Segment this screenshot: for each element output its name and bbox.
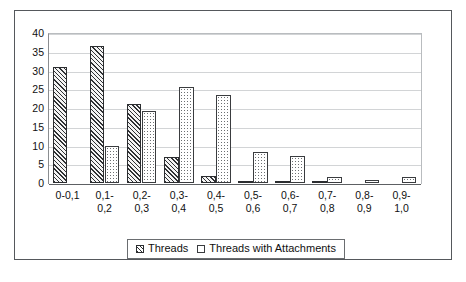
- x-tick-label-line: 0-0,1: [49, 189, 86, 202]
- x-tick-label: 0,2-0,3: [123, 189, 160, 214]
- x-tick-label: 0,1-0,2: [86, 189, 123, 214]
- legend-label-threads: Threads: [148, 242, 188, 255]
- bar: [105, 146, 120, 184]
- x-tick-label-line: 0,7: [272, 202, 309, 215]
- x-tick-label-line: 0,4: [160, 202, 197, 215]
- x-tick-label-line: 0,9: [346, 202, 383, 215]
- x-tick-label-line: 0,4-: [197, 189, 234, 202]
- bar-group: [86, 33, 123, 183]
- bar: [327, 177, 342, 183]
- bar: [290, 156, 305, 183]
- x-tick-label: 0,8-0,9: [346, 189, 383, 214]
- legend-item-threads-with-attachments: Threads with Attachments: [197, 242, 336, 255]
- bar-group: [197, 33, 234, 183]
- diagonal-hatch-swatch-icon: [136, 245, 144, 253]
- x-axis: 0-0,10,1-0,20,2-0,30,3-0,40,4-0,50,5-0,6…: [49, 189, 420, 237]
- x-tick-label: 0-0,1: [49, 189, 86, 202]
- y-tick-label-30: 30: [18, 66, 44, 76]
- x-tick-label: 0,6-0,7: [272, 189, 309, 214]
- y-tick-label-35: 35: [18, 47, 44, 57]
- x-tick-label: 0,7-0,8: [309, 189, 346, 214]
- x-tick-label-line: 0,5: [197, 202, 234, 215]
- x-tick-label-line: 0,3-: [160, 189, 197, 202]
- bar-group: [235, 33, 272, 183]
- x-tick-label-line: 0,1-: [86, 189, 123, 202]
- bar: [365, 180, 380, 183]
- x-tick-label: 0,9-1,0: [383, 189, 420, 214]
- bar: [127, 104, 142, 183]
- y-tick-label-15: 15: [18, 122, 44, 132]
- legend-label-threads-with-attachments: Threads with Attachments: [209, 242, 336, 255]
- gridline-0: [49, 184, 421, 185]
- bar: [90, 46, 105, 183]
- bar: [402, 177, 417, 183]
- x-tick-label-line: 0,3: [123, 202, 160, 215]
- bar-group: [346, 33, 383, 183]
- dotted-swatch-icon: [197, 245, 205, 253]
- chart-legend: Threads Threads with Attachments: [127, 239, 345, 259]
- x-tick-label: 0,5-0,6: [235, 189, 272, 214]
- x-tick-label-line: 0,5-: [235, 189, 272, 202]
- x-tick-label-line: 0,2-: [123, 189, 160, 202]
- bar: [53, 67, 68, 183]
- x-tick-label-line: 0,8: [309, 202, 346, 215]
- y-tick-label-25: 25: [18, 84, 44, 94]
- x-tick-label-line: 0,6-: [272, 189, 309, 202]
- bars-layer: [49, 33, 420, 183]
- bar: [275, 181, 290, 183]
- bar: [142, 111, 157, 183]
- bar: [179, 87, 194, 183]
- bar-group: [160, 33, 197, 183]
- y-tick-label-20: 20: [18, 103, 44, 113]
- legend-item-threads: Threads: [136, 242, 188, 255]
- bar-group: [272, 33, 309, 183]
- x-tick-label-line: 0,8-: [346, 189, 383, 202]
- bar-group: [383, 33, 420, 183]
- x-tick-label-line: 0,9-: [383, 189, 420, 202]
- y-tick-label-10: 10: [18, 141, 44, 151]
- y-axis: 4035302520151050: [15, 33, 44, 183]
- x-tick-label: 0,3-0,4: [160, 189, 197, 214]
- bar: [312, 181, 327, 183]
- x-tick-label-line: 0,7-: [309, 189, 346, 202]
- x-tick-label-line: 0,6: [235, 202, 272, 215]
- bar-group: [49, 33, 86, 183]
- bar: [238, 181, 253, 183]
- x-tick-label-line: 1,0: [383, 202, 420, 215]
- bar-group: [123, 33, 160, 183]
- bar-group: [309, 33, 346, 183]
- y-tick-label-0: 0: [18, 178, 44, 188]
- bar: [216, 95, 231, 183]
- y-tick-label-40: 40: [18, 28, 44, 38]
- x-tick-label-line: 0,2: [86, 202, 123, 215]
- figure-frame: 4035302520151050 0-0,10,1-0,20,2-0,30,3-…: [14, 10, 452, 260]
- bar: [201, 176, 216, 184]
- x-tick-label: 0,4-0,5: [197, 189, 234, 214]
- y-tick-label-5: 5: [18, 159, 44, 169]
- bar: [253, 152, 268, 183]
- bar: [164, 157, 179, 183]
